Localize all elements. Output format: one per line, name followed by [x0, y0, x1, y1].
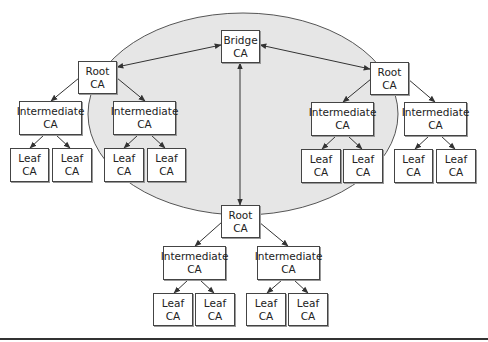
edge-int-b1-to-leaf-b2	[200, 280, 214, 293]
node-root-right: RootCA	[370, 62, 409, 95]
node-label-line2: CA	[166, 310, 181, 323]
edge-root-left-to-int-l1	[51, 78, 79, 101]
node-label-line1: Root	[86, 65, 110, 78]
node-leaf-b3: LeafCA	[246, 293, 286, 326]
node-label-line2: CA	[356, 166, 371, 179]
bridge-ca-diagram: BridgeCARootCARootCARootCAIntermediateCA…	[0, 0, 488, 342]
node-label-line1: Leaf	[18, 152, 40, 165]
node-label-line2: CA	[428, 119, 443, 132]
node-root-left: RootCA	[78, 61, 117, 94]
node-label-line1: Leaf	[402, 153, 424, 166]
node-label-line1: Intermediate	[402, 106, 470, 119]
node-int-b2: IntermediateCA	[257, 246, 320, 280]
node-label-line2: CA	[335, 119, 350, 132]
node-leaf-r4: LeafCA	[436, 149, 476, 183]
node-label-line1: Leaf	[352, 153, 374, 166]
node-leaf-r1: LeafCA	[301, 149, 341, 183]
node-leaf-b1: LeafCA	[153, 293, 193, 326]
node-label-line2: CA	[137, 118, 152, 131]
node-int-b1: IntermediateCA	[163, 246, 226, 280]
edge-int-r2-to-leaf-r4	[441, 136, 455, 149]
edge-int-b2-to-leaf-b4	[294, 280, 308, 293]
node-label-line1: Root	[378, 66, 402, 79]
node-label-line2: CA	[449, 166, 464, 179]
node-label-line2: CA	[259, 310, 274, 323]
node-int-l2: IntermediateCA	[113, 101, 176, 135]
node-int-r1: IntermediateCA	[311, 102, 374, 136]
node-label-line2: CA	[406, 166, 421, 179]
node-label-line1: Leaf	[61, 152, 83, 165]
node-int-r2: IntermediateCA	[404, 102, 467, 136]
node-leaf-b2: LeafCA	[195, 293, 235, 326]
node-label-line1: Bridge	[223, 34, 257, 47]
node-label-line1: Leaf	[255, 297, 277, 310]
node-label-line1: Root	[229, 209, 253, 222]
edge-int-l1-to-leaf-l1	[30, 135, 44, 148]
node-leaf-l1: LeafCA	[10, 148, 49, 182]
node-leaf-l3: LeafCA	[104, 148, 144, 182]
node-label-line2: CA	[382, 79, 397, 92]
node-label-line1: Leaf	[310, 153, 332, 166]
bottom-rule	[0, 338, 488, 340]
node-label-line2: CA	[233, 47, 248, 60]
node-label-line2: CA	[233, 222, 248, 235]
node-label-line2: CA	[22, 165, 37, 178]
node-leaf-b4: LeafCA	[288, 293, 328, 326]
node-label-line2: CA	[301, 310, 316, 323]
node-label-line2: CA	[90, 78, 105, 91]
edge-int-r2-to-leaf-r3	[415, 136, 429, 149]
node-label-line2: CA	[65, 165, 80, 178]
node-leaf-r3: LeafCA	[394, 149, 433, 183]
edge-int-b1-to-leaf-b1	[174, 280, 188, 293]
node-root-bottom: RootCA	[221, 205, 260, 238]
edge-root-bottom-to-int-b1	[195, 222, 222, 246]
node-label-line2: CA	[281, 263, 296, 276]
node-int-l1: IntermediateCA	[19, 101, 82, 135]
node-label-line2: CA	[187, 263, 202, 276]
edge-root-bottom-to-int-b2	[259, 222, 288, 246]
node-label-line1: Intermediate	[309, 106, 377, 119]
node-label-line2: CA	[208, 310, 223, 323]
node-label-line1: Leaf	[204, 297, 226, 310]
node-label-line2: CA	[43, 118, 58, 131]
node-leaf-r2: LeafCA	[343, 149, 383, 183]
node-bridge: BridgeCA	[221, 30, 260, 63]
edge-int-l1-to-leaf-l2	[56, 135, 70, 148]
node-label-line1: Leaf	[162, 297, 184, 310]
node-label-line1: Leaf	[445, 153, 467, 166]
node-leaf-l2: LeafCA	[52, 148, 92, 182]
node-label-line1: Leaf	[155, 152, 177, 165]
node-leaf-l4: LeafCA	[147, 148, 186, 182]
node-label-line2: CA	[314, 166, 329, 179]
node-label-line1: Intermediate	[161, 250, 229, 263]
node-label-line1: Intermediate	[111, 105, 179, 118]
edge-root-right-to-int-r2	[408, 79, 435, 102]
node-label-line1: Leaf	[297, 297, 319, 310]
node-label-line1: Intermediate	[255, 250, 323, 263]
node-label-line2: CA	[117, 165, 132, 178]
edge-int-b2-to-leaf-b3	[267, 280, 282, 293]
node-label-line1: Intermediate	[17, 105, 85, 118]
node-label-line1: Leaf	[113, 152, 135, 165]
node-label-line2: CA	[159, 165, 174, 178]
